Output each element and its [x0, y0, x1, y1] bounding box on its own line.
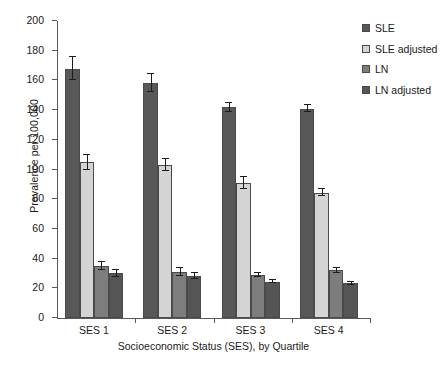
error-bar-cap	[147, 73, 154, 74]
error-bar-cap	[162, 158, 169, 159]
error-bar-cap	[304, 104, 311, 105]
bar	[109, 273, 124, 318]
error-bar-cap	[112, 276, 119, 277]
bar	[65, 69, 80, 318]
legend-item: SLE	[362, 18, 437, 39]
bar-group	[292, 21, 370, 318]
error-bar-cap	[269, 279, 276, 280]
error-bar-cap	[318, 195, 325, 196]
error-bar-cap	[269, 282, 276, 283]
bar	[187, 276, 202, 318]
error-bar-cap	[83, 169, 90, 170]
error-bar-cap	[69, 79, 76, 80]
plot-area: 020406080100120140160180200 SES 1SES 2SE…	[57, 21, 370, 318]
legend-swatch	[362, 86, 370, 94]
bar-group	[135, 21, 213, 318]
error-bar-cap	[191, 272, 198, 273]
bar	[80, 162, 95, 318]
bar-chart: Prevalence per 100,000 02040608010012014…	[0, 0, 446, 367]
legend-item: LN adjusted	[362, 80, 437, 101]
error-bar-cap	[240, 188, 247, 189]
bar	[300, 109, 315, 318]
error-bar-cap	[304, 111, 311, 112]
error-bar-cap	[176, 275, 183, 276]
error-bar-cap	[254, 276, 261, 277]
error-bar	[151, 74, 152, 92]
y-tick-label: 100	[26, 163, 44, 175]
bar	[143, 83, 158, 318]
error-bar	[72, 57, 73, 79]
y-tick-label: 80	[32, 192, 44, 204]
error-bar-cap	[191, 278, 198, 279]
legend: SLESLE adjustedLNLN adjusted	[362, 18, 437, 100]
error-bar-cap	[347, 281, 354, 282]
x-axis-title: Socioeconomic Status (SES), by Quartile	[57, 340, 370, 352]
error-bar-cap	[176, 267, 183, 268]
x-tick	[135, 318, 136, 323]
y-tick-label: 60	[32, 222, 44, 234]
y-tick-label: 0	[38, 311, 44, 323]
error-bar-cap	[225, 111, 232, 112]
legend-label: LN	[375, 63, 388, 75]
bar	[343, 283, 358, 318]
error-bar-cap	[147, 91, 154, 92]
y-axis-title: Prevalence per 100,000	[28, 26, 40, 286]
legend-swatch	[362, 65, 370, 73]
x-tick	[214, 318, 215, 323]
bar	[158, 165, 173, 318]
y-tick-label: 120	[26, 133, 44, 145]
y-tick-label: 20	[32, 281, 44, 293]
error-bar-cap	[333, 267, 340, 268]
error-bar-cap	[83, 154, 90, 155]
legend-swatch	[362, 24, 370, 32]
error-bar-cap	[254, 272, 261, 273]
error-bar	[87, 155, 88, 170]
bar	[329, 270, 344, 318]
x-tick	[370, 318, 371, 323]
legend-item: SLE adjusted	[362, 39, 437, 60]
error-bar-cap	[98, 261, 105, 262]
bar	[236, 183, 251, 318]
error-bar-cap	[225, 102, 232, 103]
bar	[314, 193, 329, 318]
error-bar-cap	[240, 176, 247, 177]
error-bar-cap	[347, 284, 354, 285]
y-tick-label: 140	[26, 103, 44, 115]
bar	[172, 272, 187, 318]
error-bar-cap	[112, 269, 119, 270]
legend-label: SLE	[375, 22, 395, 34]
error-bar-cap	[69, 56, 76, 57]
bar-group	[57, 21, 135, 318]
error-bar-cap	[333, 272, 340, 273]
y-tick-label: 200	[26, 14, 44, 26]
error-bar-cap	[98, 269, 105, 270]
x-tick-label: SES 2	[157, 324, 187, 336]
legend-item: LN	[362, 59, 437, 80]
legend-label: SLE adjusted	[375, 43, 437, 55]
bar-group	[214, 21, 292, 318]
x-tick-label: SES 3	[236, 324, 266, 336]
legend-label: LN adjusted	[375, 84, 431, 96]
y-tick-label: 160	[26, 73, 44, 85]
bar	[265, 282, 280, 318]
y-tick-label: 40	[32, 252, 44, 264]
error-bar-cap	[318, 188, 325, 189]
bar	[251, 275, 266, 318]
bar	[94, 266, 109, 318]
x-tick-label: SES 1	[79, 324, 109, 336]
x-tick-label: SES 4	[314, 324, 344, 336]
legend-swatch	[362, 45, 370, 53]
error-bar-cap	[162, 170, 169, 171]
y-tick-label: 180	[26, 44, 44, 56]
x-tick	[292, 318, 293, 323]
bar	[222, 107, 237, 318]
